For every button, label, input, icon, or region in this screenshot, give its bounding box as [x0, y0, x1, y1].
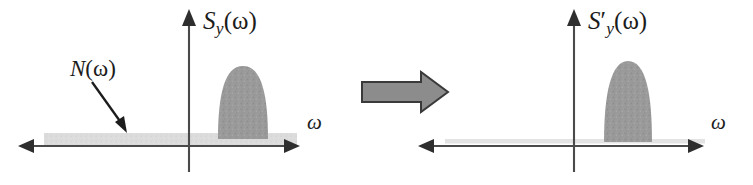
right-y-axis-label-subscript: y	[606, 18, 614, 38]
left-y-axis-label-base: S	[203, 7, 216, 34]
left-panel	[18, 9, 300, 172]
left-y-axis-label-subscript: y	[216, 18, 224, 38]
right-x-axis-label: ω	[711, 112, 726, 133]
noise-pointer-arrow	[92, 82, 127, 133]
right-panel	[418, 9, 705, 172]
right-y-axis-label: S′y(ω)	[588, 8, 647, 38]
left-y-axis-label: Sy(ω)	[203, 8, 257, 38]
noise-annotation-label: N(ω)	[70, 57, 116, 80]
left-y-axis-label-argument: (ω)	[224, 7, 257, 34]
right-signal-hump	[604, 61, 652, 142]
noise-annotation-argument: (ω)	[85, 56, 115, 81]
block-arrow-right	[362, 72, 448, 112]
left-signal-hump	[218, 66, 268, 139]
figure-root: Sy(ω) S′y(ω) N(ω) ω ω	[0, 0, 753, 185]
left-y-axis	[182, 9, 196, 172]
right-y-axis-label-argument: (ω)	[614, 7, 647, 34]
left-x-axis-label: ω	[307, 112, 322, 133]
noise-annotation-base: N	[70, 56, 85, 81]
right-y-axis-label-base: S	[588, 7, 601, 34]
right-y-axis	[567, 9, 581, 172]
